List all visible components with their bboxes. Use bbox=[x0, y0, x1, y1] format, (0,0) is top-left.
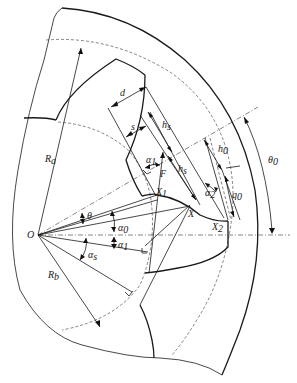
gear-tooth-diagram: O Ra Rb d s hs hs h0 q0 θ0 F X X1 X2 α1 … bbox=[0, 0, 297, 383]
label-origin: O bbox=[27, 229, 34, 240]
label-theta: θ bbox=[87, 210, 92, 221]
label-s: s bbox=[131, 121, 135, 132]
label-F: F bbox=[159, 168, 167, 179]
label-X: X bbox=[187, 208, 195, 219]
